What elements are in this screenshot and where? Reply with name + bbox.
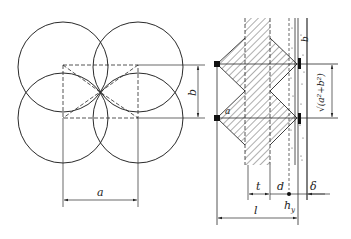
anchor-marker-bottom <box>214 115 220 121</box>
label-t: t <box>256 180 261 193</box>
label-b: b <box>186 89 199 96</box>
label-delta: δ <box>310 180 317 193</box>
diagram-canvas: a b <box>0 0 351 239</box>
hy-point <box>287 192 291 196</box>
left-figure <box>18 22 205 207</box>
label-l: l <box>254 204 258 217</box>
label-strip-b: b <box>300 36 310 42</box>
strip-marker-top <box>298 58 301 69</box>
strip-dots <box>290 27 304 160</box>
strip-marker-bottom <box>298 113 301 124</box>
anchor-marker-top <box>214 61 220 67</box>
label-a: a <box>97 186 104 199</box>
label-h-subscript: y <box>290 206 296 214</box>
label-diagonal: √(a²+b²) <box>316 73 326 112</box>
hatched-column <box>217 18 297 165</box>
label-angle-a: a <box>225 106 230 116</box>
label-d: d <box>277 180 284 193</box>
right-figure <box>217 18 338 225</box>
